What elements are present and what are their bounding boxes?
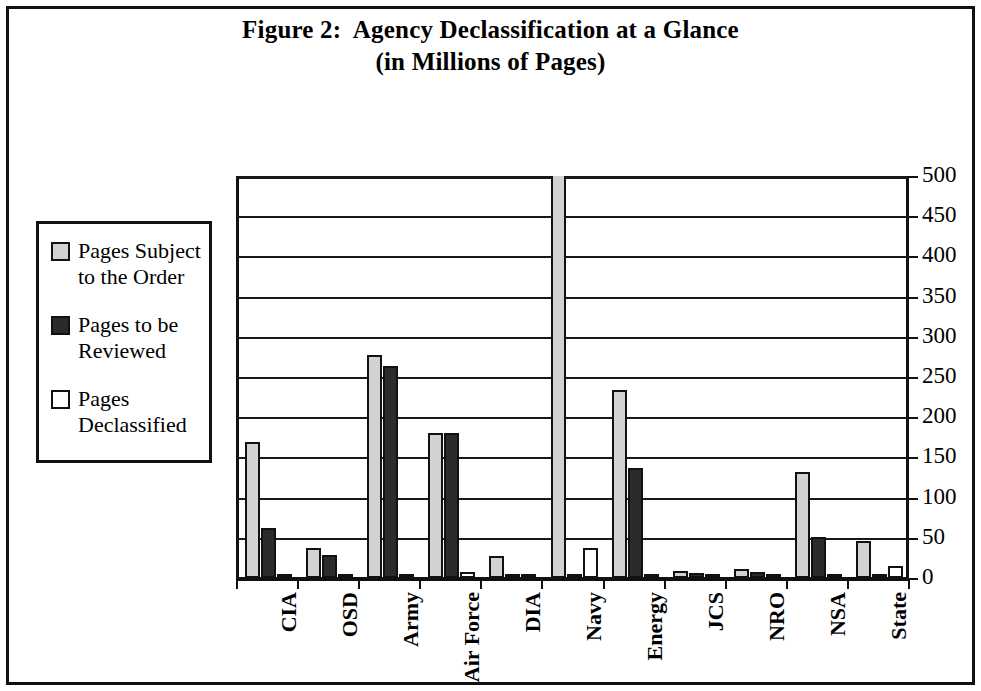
x-tick-mark-3 xyxy=(419,578,421,589)
y-tick-mark-250 xyxy=(909,377,918,379)
y-tick-label-400: 400 xyxy=(922,243,957,266)
bar-navy-series-0 xyxy=(551,176,566,578)
bar-nsa-series-1 xyxy=(811,537,826,578)
bar-air-force-series-1 xyxy=(444,433,459,578)
bar-state-series-1 xyxy=(872,574,887,578)
y-tick-mark-350 xyxy=(909,297,918,299)
y-tick-label-300: 300 xyxy=(922,324,957,347)
gridline-200 xyxy=(236,417,908,419)
bar-navy-series-1 xyxy=(567,574,582,578)
y-tick-mark-100 xyxy=(909,498,918,500)
y-tick-mark-500 xyxy=(909,176,918,178)
bar-army-series-1 xyxy=(383,366,398,578)
x-tick-mark-4 xyxy=(480,578,482,589)
bar-nro-series-1 xyxy=(750,572,765,578)
bar-dia-series-0 xyxy=(489,556,504,578)
x-axis-label-dia: DIA xyxy=(520,592,546,632)
x-axis-label-state: State xyxy=(886,592,912,640)
gridline-150 xyxy=(236,457,908,459)
x-tick-mark-1 xyxy=(297,578,299,589)
bar-osd-series-1 xyxy=(322,555,337,578)
bar-osd-series-2 xyxy=(338,574,353,578)
x-axis-label-cia: CIA xyxy=(276,592,302,632)
gridline-500 xyxy=(236,176,908,179)
x-axis-label-osd: OSD xyxy=(337,592,363,637)
white-swatch xyxy=(51,390,70,409)
legend-label-2: Pages Declassified xyxy=(78,386,187,438)
bar-nro-series-0 xyxy=(734,569,749,578)
y-tick-mark-300 xyxy=(909,337,918,339)
x-tick-mark-11 xyxy=(908,578,910,589)
y-tick-label-0: 0 xyxy=(922,565,934,588)
x-tick-mark-0 xyxy=(236,578,238,589)
bar-navy-series-2 xyxy=(583,548,598,578)
legend-item-0: Pages Subject to the Order xyxy=(51,238,209,290)
figure-title-line-1: Figure 2: Agency Declassification at a G… xyxy=(0,14,981,46)
bar-jcs-series-0 xyxy=(673,571,688,578)
legend-item-1: Pages to be Reviewed xyxy=(51,312,209,364)
bar-dia-series-2 xyxy=(521,574,536,578)
y-tick-label-450: 450 xyxy=(922,203,957,226)
bar-state-series-0 xyxy=(856,541,871,578)
x-axis-label-energy: Energy xyxy=(642,592,668,660)
x-tick-mark-2 xyxy=(358,578,360,589)
legend-label-1: Pages to be Reviewed xyxy=(78,312,178,364)
bar-air-force-series-0 xyxy=(428,433,443,578)
gridline-400 xyxy=(236,256,908,258)
bar-cia-series-0 xyxy=(245,442,260,578)
bar-cia-series-2 xyxy=(277,574,292,578)
y-tick-mark-450 xyxy=(909,216,918,218)
bar-army-series-0 xyxy=(367,355,382,578)
dark-gray-swatch xyxy=(51,316,70,335)
bar-dia-series-1 xyxy=(505,574,520,578)
bar-jcs-series-1 xyxy=(689,573,704,578)
figure-title: Figure 2: Agency Declassification at a G… xyxy=(0,14,981,78)
y-tick-mark-0 xyxy=(909,578,918,580)
x-axis-label-jcs: JCS xyxy=(703,592,729,631)
bar-nsa-series-0 xyxy=(795,472,810,578)
x-tick-mark-5 xyxy=(541,578,543,589)
bar-nsa-series-2 xyxy=(827,574,842,578)
x-tick-mark-9 xyxy=(786,578,788,589)
y-tick-label-200: 200 xyxy=(922,404,957,427)
light-gray-swatch xyxy=(51,242,70,261)
bar-nro-series-2 xyxy=(766,574,781,578)
bar-cia-series-1 xyxy=(261,528,276,578)
bar-energy-series-2 xyxy=(644,574,659,578)
chart-legend: Pages Subject to the OrderPages to be Re… xyxy=(36,221,212,463)
x-tick-mark-8 xyxy=(725,578,727,589)
bar-energy-series-0 xyxy=(612,390,627,578)
legend-item-2: Pages Declassified xyxy=(51,386,209,438)
bar-air-force-series-2 xyxy=(460,572,475,578)
gridline-300 xyxy=(236,337,908,339)
x-tick-mark-10 xyxy=(847,578,849,589)
y-tick-mark-200 xyxy=(909,417,918,419)
x-axis-label-army: Army xyxy=(398,592,424,647)
plot-area xyxy=(236,176,908,578)
y-tick-mark-400 xyxy=(909,256,918,258)
x-axis-label-nro: NRO xyxy=(764,592,790,641)
x-tick-mark-7 xyxy=(664,578,666,589)
figure-title-line-2: (in Millions of Pages) xyxy=(0,46,981,78)
gridline-450 xyxy=(236,216,908,218)
x-axis-label-nsa: NSA xyxy=(825,592,851,636)
y-tick-label-50: 50 xyxy=(922,525,945,548)
gridline-250 xyxy=(236,377,908,379)
y-tick-mark-150 xyxy=(909,457,918,459)
bar-energy-series-1 xyxy=(628,468,643,578)
y-tick-mark-50 xyxy=(909,538,918,540)
legend-label-0: Pages Subject to the Order xyxy=(78,238,201,290)
bar-osd-series-0 xyxy=(306,548,321,578)
y-tick-label-100: 100 xyxy=(922,485,957,508)
bar-army-series-2 xyxy=(399,574,414,578)
x-tick-mark-6 xyxy=(603,578,605,589)
y-tick-label-350: 350 xyxy=(922,284,957,307)
x-axis-label-navy: Navy xyxy=(581,592,607,641)
y-tick-label-150: 150 xyxy=(922,444,957,467)
bar-jcs-series-2 xyxy=(705,574,720,578)
gridline-350 xyxy=(236,297,908,299)
y-tick-label-250: 250 xyxy=(922,364,957,387)
x-axis-label-air-force: Air Force xyxy=(459,592,485,682)
bar-state-series-2 xyxy=(888,566,903,578)
y-tick-label-500: 500 xyxy=(922,163,957,186)
